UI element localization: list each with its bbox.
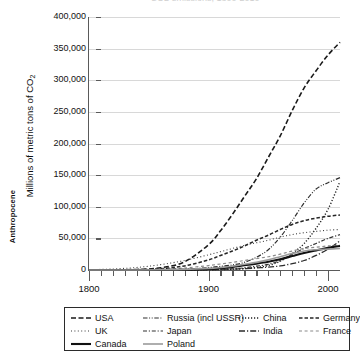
- legend-swatch-icon: [143, 340, 163, 348]
- legend-swatch-icon: [239, 314, 259, 322]
- legend-swatch-icon: [71, 314, 91, 322]
- legend-item-india[interactable]: India: [239, 326, 283, 336]
- series-line-usa: [89, 42, 340, 270]
- legend-item-japan[interactable]: Japan: [143, 326, 192, 336]
- series-line-russia-incl-ussr: [89, 178, 340, 270]
- legend-swatch-icon: [71, 327, 91, 335]
- legend-item-germany[interactable]: Germany: [299, 313, 360, 323]
- legend-item-poland[interactable]: Poland: [143, 339, 195, 349]
- legend-label: Poland: [167, 339, 195, 349]
- legend-label: USA: [95, 313, 114, 323]
- legend-label: Japan: [167, 326, 192, 336]
- series-line-uk: [89, 230, 340, 270]
- legend-label: Germany: [323, 313, 360, 323]
- legend-row: UKJapanIndiaFrance: [71, 324, 345, 337]
- legend-row: CanadaPoland: [71, 337, 345, 350]
- legend-swatch-icon: [71, 340, 91, 348]
- legend-label: Canada: [95, 339, 127, 349]
- legend-label: China: [263, 313, 287, 323]
- legend-swatch-icon: [143, 327, 163, 335]
- legend-item-uk[interactable]: UK: [71, 326, 108, 336]
- legend-row: USARussia (incl USSR)ChinaGermany: [71, 311, 345, 324]
- legend-label: India: [263, 326, 283, 336]
- legend-label: France: [323, 326, 351, 336]
- legend-label: UK: [95, 326, 108, 336]
- legend-item-usa[interactable]: USA: [71, 313, 114, 323]
- legend-swatch-icon: [299, 314, 319, 322]
- legend-label: Russia (incl USSR): [167, 313, 244, 323]
- legend-item-china[interactable]: China: [239, 313, 287, 323]
- legend-swatch-icon: [239, 327, 259, 335]
- legend-item-france[interactable]: France: [299, 326, 351, 336]
- legend-item-russia-incl-ussr[interactable]: Russia (incl USSR): [143, 313, 244, 323]
- legend-swatch-icon: [143, 314, 163, 322]
- legend-item-canada[interactable]: Canada: [71, 339, 127, 349]
- series-line-china: [89, 181, 340, 270]
- legend-swatch-icon: [299, 327, 319, 335]
- chart-legend: USARussia (incl USSR)ChinaGermanyUKJapan…: [64, 307, 350, 351]
